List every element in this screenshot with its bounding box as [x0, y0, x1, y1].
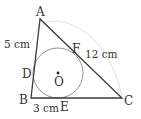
vertex-label-b: B	[19, 93, 28, 107]
tangent-label-f: F	[72, 42, 80, 56]
tangent-label-e: E	[60, 100, 69, 114]
vertex-label-c: C	[124, 94, 133, 108]
center-dot	[57, 72, 60, 75]
measurement-be: 3 cm	[33, 102, 59, 114]
measurement-fc: 12 cm	[85, 48, 118, 60]
tangent-label-d: D	[22, 67, 32, 81]
measurement-ad: 5 cm	[4, 38, 30, 50]
center-label-o: O	[54, 75, 64, 89]
triangle-incircle-diagram: A B C D E F O 5 cm 12 cm 3 cm	[0, 0, 141, 119]
vertex-label-a: A	[35, 5, 45, 19]
